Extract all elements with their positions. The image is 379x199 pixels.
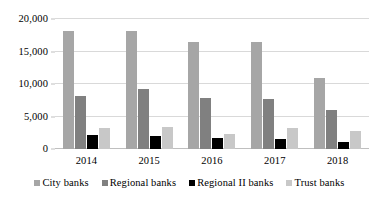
legend-item-label: Regional banks bbox=[110, 178, 176, 189]
y-axis: 05,00010,00015,00020,000 bbox=[0, 0, 55, 168]
bar[interactable] bbox=[338, 142, 349, 149]
bar[interactable] bbox=[275, 139, 286, 149]
bar[interactable] bbox=[212, 138, 223, 149]
y-axis-tick-label: 0 bbox=[43, 144, 48, 155]
x-axis-tick-label: 2016 bbox=[181, 152, 244, 170]
y-axis-tick-label: 20,000 bbox=[19, 14, 48, 25]
legend-swatch-icon bbox=[34, 180, 40, 186]
bar[interactable] bbox=[200, 98, 211, 149]
bar-group bbox=[243, 19, 306, 149]
bar-groups bbox=[55, 19, 369, 149]
bar[interactable] bbox=[263, 99, 274, 149]
chart-legend: City banksRegional banksRegional II bank… bbox=[0, 174, 379, 192]
bar[interactable] bbox=[138, 89, 149, 149]
bar[interactable] bbox=[75, 96, 86, 149]
bar[interactable] bbox=[162, 127, 173, 149]
bar-group bbox=[118, 19, 181, 149]
bar[interactable] bbox=[224, 134, 235, 149]
bar[interactable] bbox=[63, 31, 74, 149]
bar[interactable] bbox=[251, 42, 262, 149]
bar[interactable] bbox=[350, 131, 361, 149]
legend-item-label: Trust banks bbox=[294, 178, 344, 189]
legend-item-label: City banks bbox=[42, 178, 88, 189]
bar[interactable] bbox=[188, 42, 199, 149]
bar[interactable] bbox=[287, 128, 298, 149]
bar-group bbox=[306, 19, 369, 149]
y-axis-tick-label: 5,000 bbox=[24, 111, 48, 122]
legend-item[interactable]: City banks bbox=[34, 178, 88, 189]
x-axis-tick-label: 2014 bbox=[55, 152, 118, 170]
bar[interactable] bbox=[99, 128, 110, 149]
legend-item-label: Regional II banks bbox=[197, 178, 273, 189]
legend-swatch-icon bbox=[286, 180, 292, 186]
x-axis-tick-label: 2015 bbox=[118, 152, 181, 170]
bar[interactable] bbox=[126, 31, 137, 149]
bar-chart: 05,00010,00015,00020,000 201420152016201… bbox=[0, 0, 379, 199]
y-axis-tick-label: 10,000 bbox=[19, 79, 48, 90]
legend-swatch-icon bbox=[189, 180, 195, 186]
x-axis-tick-label: 2017 bbox=[243, 152, 306, 170]
legend-item[interactable]: Regional II banks bbox=[189, 178, 273, 189]
bar[interactable] bbox=[150, 136, 161, 149]
x-axis-tick-label: 2018 bbox=[306, 152, 369, 170]
x-axis: 20142015201620172018 bbox=[55, 152, 369, 170]
bar[interactable] bbox=[326, 110, 337, 149]
bar[interactable] bbox=[87, 135, 98, 149]
legend-item[interactable]: Trust banks bbox=[286, 178, 344, 189]
legend-item[interactable]: Regional banks bbox=[102, 178, 176, 189]
y-axis-tick-label: 15,000 bbox=[19, 46, 48, 57]
bar-group bbox=[55, 19, 118, 149]
legend-swatch-icon bbox=[102, 180, 108, 186]
bar-group bbox=[181, 19, 244, 149]
bar[interactable] bbox=[314, 78, 325, 149]
